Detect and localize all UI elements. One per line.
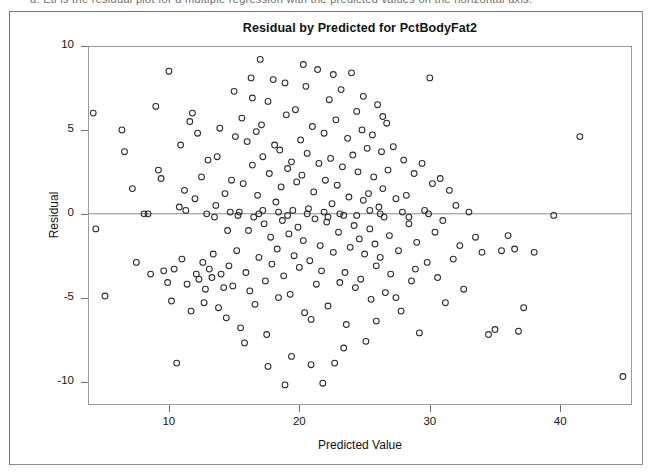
data-point (298, 137, 304, 143)
data-point (419, 161, 425, 167)
data-point (256, 255, 262, 261)
y-tick-label: 5 (30, 122, 74, 134)
data-point (229, 177, 235, 183)
data-point (406, 221, 412, 227)
data-point (290, 208, 296, 214)
data-point (182, 187, 188, 193)
y-tick-mark (81, 298, 88, 299)
data-point (403, 192, 409, 198)
data-point (233, 134, 239, 140)
data-point (148, 271, 154, 277)
data-point (222, 191, 228, 197)
data-point (380, 186, 386, 192)
data-point (422, 208, 428, 214)
data-point (280, 218, 286, 224)
data-point (158, 176, 164, 182)
data-point (450, 256, 456, 262)
data-point (165, 280, 171, 286)
data-point (272, 142, 278, 148)
data-point (364, 145, 370, 151)
data-point (210, 251, 216, 257)
data-point (447, 187, 453, 193)
data-point (381, 214, 387, 220)
data-point (499, 248, 505, 254)
y-tick-mark (81, 382, 88, 383)
data-point (375, 102, 381, 108)
data-point (277, 147, 283, 153)
data-point (248, 75, 254, 81)
data-point (206, 266, 212, 272)
data-point (380, 114, 386, 120)
data-point (393, 196, 399, 202)
data-point (250, 95, 256, 101)
chart-title: Residual by Predicted for PctBodyFat2 (88, 21, 632, 35)
data-point (218, 271, 224, 277)
data-point (250, 162, 256, 168)
data-point (353, 285, 359, 291)
data-point (310, 124, 316, 130)
data-point (286, 231, 292, 237)
x-tick-mark (560, 405, 561, 412)
data-point (342, 270, 348, 276)
data-point (326, 97, 332, 103)
data-point (358, 276, 364, 282)
data-point (317, 243, 323, 249)
data-point (153, 104, 159, 110)
data-point (325, 303, 331, 309)
residual-plot-figure: Residual by Predicted for PctBodyFat2 Re… (0, 0, 651, 476)
data-point (276, 295, 282, 301)
data-point (190, 110, 196, 116)
data-point (417, 330, 423, 336)
data-point (184, 281, 190, 287)
data-point (174, 360, 180, 366)
y-tick-mark (81, 130, 88, 131)
data-point (255, 192, 261, 198)
data-point (457, 243, 463, 249)
y-tick-mark (81, 46, 88, 47)
data-point (246, 228, 252, 234)
data-point (252, 301, 258, 307)
data-point (312, 216, 318, 222)
data-point (360, 93, 366, 99)
data-point (269, 261, 275, 267)
data-point (373, 318, 379, 324)
data-point (225, 228, 231, 234)
y-tick-label: -10 (30, 374, 74, 386)
data-point (200, 260, 206, 266)
data-point (350, 152, 356, 158)
data-point (294, 179, 300, 185)
data-point (320, 380, 326, 386)
data-point (302, 310, 308, 316)
data-point (424, 260, 430, 266)
data-point (212, 214, 218, 220)
data-point (285, 166, 291, 172)
y-tick-label: 10 (30, 38, 74, 50)
y-tick-label: 0 (30, 206, 74, 218)
data-point (122, 149, 128, 155)
data-point (376, 204, 382, 210)
data-point (240, 181, 246, 187)
data-point (356, 236, 362, 242)
data-point (370, 132, 376, 138)
data-point (383, 290, 389, 296)
data-point (270, 77, 276, 83)
data-point (291, 253, 297, 259)
data-point (330, 72, 336, 78)
data-point (203, 286, 209, 292)
x-tick-mark (299, 405, 300, 412)
data-point (169, 298, 175, 304)
data-point (340, 164, 346, 170)
data-point (304, 151, 310, 157)
data-point (230, 283, 236, 289)
data-point (413, 266, 419, 272)
data-point (328, 156, 334, 162)
data-point (492, 327, 498, 333)
data-point (347, 244, 353, 250)
data-point (260, 208, 266, 214)
data-point (396, 248, 402, 254)
data-point (238, 325, 244, 331)
data-point (398, 308, 404, 314)
data-point (247, 288, 253, 294)
data-point (178, 142, 184, 148)
data-point (379, 149, 385, 155)
